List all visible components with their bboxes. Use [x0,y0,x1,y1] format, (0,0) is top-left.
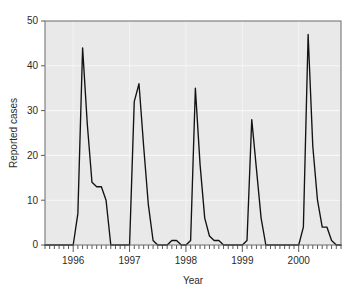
y-tick-label: 50 [27,15,39,26]
x-tick-label: 1996 [62,255,85,266]
reported-cases-line-chart: 01020304050 19961997199819992000 Reporte… [0,0,353,291]
y-axis-label: Reported cases [8,98,19,168]
x-axis-label: Year [183,275,204,286]
plot-background [45,21,341,245]
x-tick-label: 1999 [231,255,254,266]
y-tick-label: 20 [27,150,39,161]
plot-area [45,21,341,245]
x-tick-label: 1998 [175,255,198,266]
y-tick-label: 40 [27,60,39,71]
y-tick-label: 30 [27,105,39,116]
x-tick-label: 1997 [118,255,141,266]
y-tick-label: 10 [27,195,39,206]
x-tick-label: 2000 [288,255,311,266]
y-tick-label: 0 [32,239,38,250]
